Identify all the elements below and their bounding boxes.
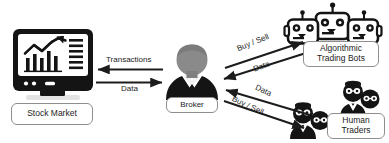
diagram-canvas: Stock Market Broker Algorithmic Trading … [0,0,389,143]
robot-group-icon [285,2,382,43]
flow-label-data-to-broker: Data [121,84,138,93]
node-label-algorithmic-trading-bots: Algorithmic Trading Bots [303,41,379,67]
node-label-human-traders: Human Traders [327,113,385,139]
monitor-chart-icon [13,29,93,100]
flow-label-transactions: Transactions [106,55,152,64]
businessman-icon [166,45,218,101]
node-label-stock-market: Stock Market [11,103,93,125]
node-label-broker: Broker [166,97,218,113]
